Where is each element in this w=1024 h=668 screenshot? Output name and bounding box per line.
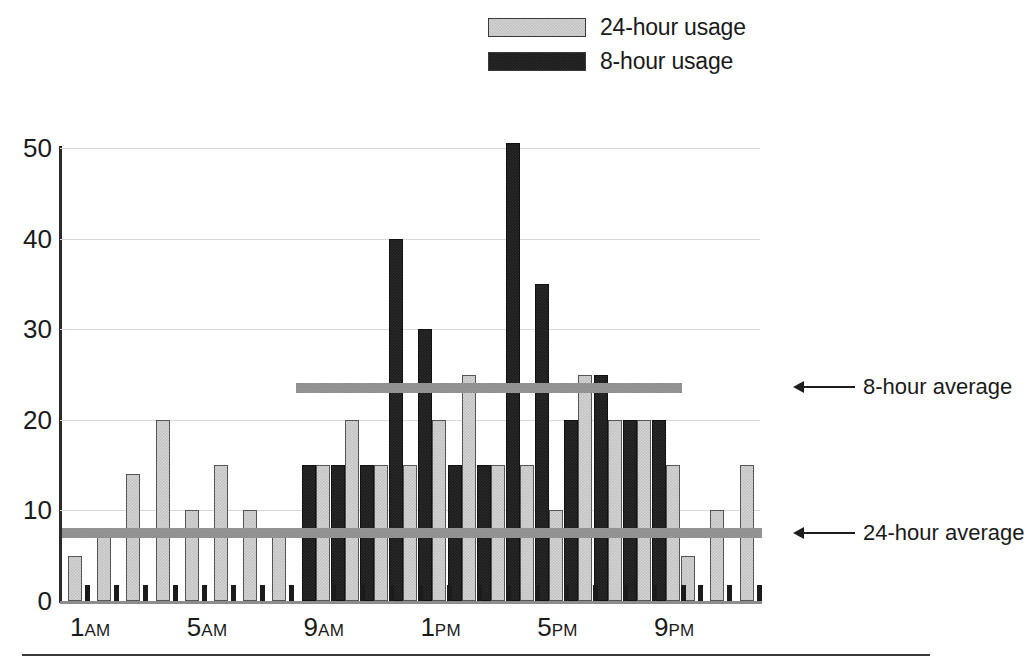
bar-24-hour-usage (710, 510, 724, 601)
light-gray-swatch-icon (488, 18, 586, 37)
bar-24-hour-usage (432, 420, 446, 601)
left-arrow-icon (793, 381, 855, 393)
x-tick-period: PM (668, 621, 694, 640)
bar-8-hour-usage (389, 239, 403, 601)
bar-24-hour-usage (68, 556, 82, 601)
x-axis-tick (331, 585, 336, 601)
bar-24-hour-usage (608, 420, 622, 601)
bar-24-hour-usage (272, 529, 286, 601)
y-axis-tick-label: 20 (0, 404, 52, 435)
legend-item-label: 8-hour usage (600, 48, 733, 75)
x-axis-tick (623, 585, 628, 601)
x-axis-tick-label: 9PM (654, 612, 695, 643)
reference-line-24-hour-average (62, 528, 762, 538)
x-axis-tick (757, 585, 762, 601)
bar-24-hour-usage (156, 420, 170, 601)
x-axis-tick-label: 1PM (420, 612, 461, 643)
x-axis-tick (289, 585, 294, 601)
legend-item: 8-hour usage (488, 44, 746, 78)
x-axis-tick (418, 585, 423, 601)
x-tick-hour: 5 (537, 612, 551, 642)
bar-8-hour-usage (594, 375, 608, 602)
x-tick-hour: 9 (304, 612, 318, 642)
x-tick-period: AM (84, 621, 110, 640)
x-axis-line (60, 601, 762, 604)
x-axis-tick (593, 585, 598, 601)
x-tick-period: PM (435, 621, 461, 640)
x-axis-tick-label: 5PM (537, 612, 578, 643)
gridline (60, 239, 760, 240)
bar-8-hour-usage (623, 420, 637, 601)
bar-8-hour-usage (535, 284, 549, 601)
plot-area (60, 148, 760, 601)
x-axis-tick (652, 585, 657, 601)
bar-24-hour-usage (578, 375, 592, 602)
x-axis-tick-label: 1AM (70, 612, 111, 643)
x-axis-tick (173, 585, 178, 601)
x-axis-tick-label: 9AM (304, 612, 345, 643)
x-tick-period: PM (552, 621, 578, 640)
bar-24-hour-usage (462, 375, 476, 602)
reference-line-8-hour-average (296, 383, 682, 393)
black-swatch-icon (488, 52, 586, 71)
bar-24-hour-usage (243, 510, 257, 601)
x-axis-tick (360, 585, 365, 601)
bar-24-hour-usage (185, 510, 199, 601)
y-axis-tick-label: 50 (0, 133, 52, 164)
bar-24-hour-usage (637, 420, 651, 601)
y-axis-tick-label: 10 (0, 495, 52, 526)
bar-8-hour-usage (418, 329, 432, 601)
x-axis-tick (447, 585, 452, 601)
bar-8-hour-usage (652, 420, 666, 601)
x-axis-tick (506, 585, 511, 601)
annotation-label: 24-hour average (863, 520, 1024, 546)
x-axis-tick (681, 585, 686, 601)
bar-24-hour-usage (97, 529, 111, 601)
x-axis-tick (231, 585, 236, 601)
y-axis-tick-label: 30 (0, 314, 52, 345)
annotation-label: 8-hour average (863, 374, 1012, 400)
x-tick-hour: 9 (654, 612, 668, 642)
y-axis-tick-label: 40 (0, 223, 52, 254)
x-tick-hour: 5 (187, 612, 201, 642)
bar-8-hour-usage (564, 420, 578, 601)
annotation-24-hour-average: 24-hour average (793, 520, 1024, 546)
bottom-divider (22, 654, 930, 656)
x-axis-tick (85, 585, 90, 601)
x-axis-tick (202, 585, 207, 601)
gridline (60, 329, 760, 330)
x-axis-tick (260, 585, 265, 601)
chart-legend: 24-hour usage 8-hour usage (488, 10, 746, 78)
x-tick-hour: 1 (70, 612, 84, 642)
gridline (60, 148, 760, 149)
legend-item-label: 24-hour usage (600, 14, 746, 41)
legend-item: 24-hour usage (488, 10, 746, 44)
x-axis-tick (535, 585, 540, 601)
x-axis-tick (114, 585, 119, 601)
x-tick-hour: 1 (420, 612, 434, 642)
x-tick-period: AM (201, 621, 227, 640)
bar-24-hour-usage (549, 510, 563, 601)
x-axis-tick (389, 585, 394, 601)
x-axis-tick (698, 585, 703, 601)
annotation-8-hour-average: 8-hour average (793, 374, 1012, 400)
x-tick-period: AM (318, 621, 344, 640)
bar-24-hour-usage (345, 420, 359, 601)
x-axis-tick (477, 585, 482, 601)
x-axis-tick (564, 585, 569, 601)
x-axis-labels: 1AM5AM9AM1PM5PM9PM (0, 612, 953, 652)
x-axis-tick-label: 5AM (187, 612, 228, 643)
left-arrow-icon (793, 527, 855, 539)
y-axis-labels: 01020304050 (0, 148, 52, 601)
x-axis-tick (143, 585, 148, 601)
x-axis-tick (727, 585, 732, 601)
